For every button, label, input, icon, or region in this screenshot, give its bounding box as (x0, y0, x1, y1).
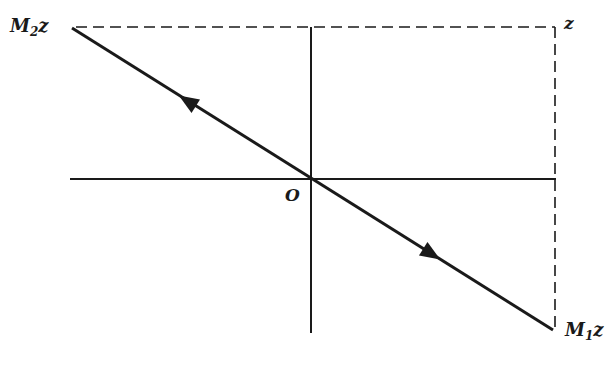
label-z: z (563, 13, 574, 33)
arrow-up-left-icon (175, 89, 200, 113)
label-m2z: M2z (9, 15, 49, 39)
label-origin: O (285, 185, 300, 205)
label-m1z: M1z (564, 319, 604, 343)
diagram-canvas: M2z z M1z O (0, 0, 611, 369)
arrow-down-right-icon (419, 242, 444, 266)
